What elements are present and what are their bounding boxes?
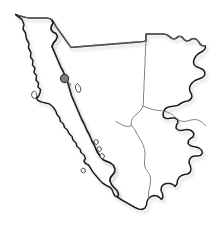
secondary-location-marker <box>69 83 71 85</box>
island-isla-carmen <box>94 140 99 145</box>
island-isla-san-jose <box>97 147 102 152</box>
island-isla-cedros <box>32 91 38 99</box>
map-container: Northwestern Mexico Region Map Outline m… <box>0 0 216 229</box>
border-usa-sonora <box>54 23 146 47</box>
border-usa-chihuahua <box>146 34 206 46</box>
island-isla-espiritu-santo <box>100 154 105 159</box>
map-graphic <box>0 0 216 229</box>
islands-group <box>32 84 105 174</box>
markers-group <box>60 74 71 85</box>
island-isla-south <box>81 168 86 173</box>
border-sonora-sinaloa <box>116 122 132 127</box>
border-durango-east <box>178 120 206 127</box>
mainland-landmass <box>51 20 206 210</box>
border-sinaloa-durango <box>132 126 151 199</box>
island-isla-angel-guarda <box>76 84 82 93</box>
primary-location-marker[interactable] <box>60 74 68 82</box>
internal-borders-group <box>19 16 206 199</box>
border-sonora-chihuahua <box>131 41 146 126</box>
mainland-group <box>51 20 206 210</box>
